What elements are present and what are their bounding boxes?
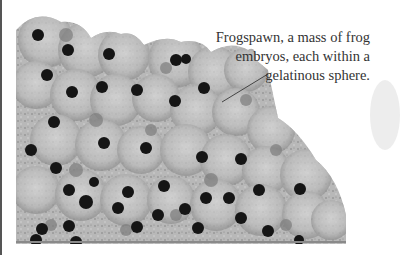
caption-line-1: Frogspawn, a mass of frog: [200, 28, 370, 47]
caption-line-2: embryos, each within a: [200, 47, 370, 66]
page-edge-line: [0, 0, 2, 255]
figure-caption: Frogspawn, a mass of frog embryos, each …: [200, 28, 386, 85]
caption-line-3: gelatinous sphere.: [200, 66, 370, 85]
adjacent-image-edge: [370, 80, 400, 150]
